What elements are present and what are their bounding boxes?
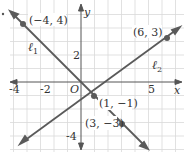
bullet-mark (2, 13, 4, 15)
y-tick-2: 2 (73, 49, 80, 62)
coordinate-plane: (−4, 4) (6, 3) (1, −1) (3, −3) ℓ1 ℓ2 y x… (0, 0, 184, 152)
point-label-6-3: (6, 3) (133, 26, 163, 39)
origin-label: O (70, 83, 79, 96)
point-label-neg4-4: (−4, 4) (29, 14, 68, 27)
line-label-l2: ℓ2 (152, 58, 162, 74)
point-label-3-neg3: (3, −3) (85, 117, 124, 130)
point-neg4-4 (20, 21, 26, 27)
point-label-1-neg1: (1, −1) (99, 97, 138, 110)
x-tick-neg2: -2 (40, 83, 51, 96)
y-axis-arrow-up (79, 4, 84, 11)
y-axis-label: y (83, 6, 91, 19)
x-tick-5: 5 (148, 83, 155, 96)
x-axis-label: x (174, 84, 181, 97)
point-6-3 (164, 35, 170, 41)
line-l1 (10, 11, 148, 149)
line-label-l1: ℓ1 (28, 40, 38, 56)
point-1-neg1 (91, 93, 97, 99)
y-axis-arrow-down (79, 143, 84, 150)
y-tick-neg4: -4 (66, 130, 77, 143)
x-tick-neg4: -4 (9, 83, 20, 96)
